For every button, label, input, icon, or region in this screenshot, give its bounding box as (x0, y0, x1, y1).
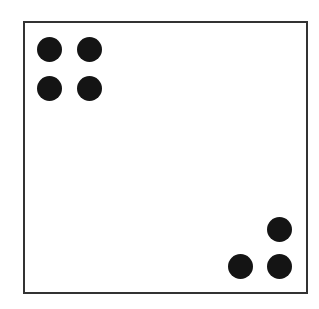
square-frame (23, 21, 308, 294)
bottom-right-group-dot (228, 254, 253, 279)
top-left-group-dot (37, 76, 62, 101)
top-left-group-dot (77, 76, 102, 101)
bottom-right-group-dot (267, 254, 292, 279)
top-left-group-dot (77, 37, 102, 62)
top-left-group-dot (37, 37, 62, 62)
bottom-right-group-dot (267, 217, 292, 242)
